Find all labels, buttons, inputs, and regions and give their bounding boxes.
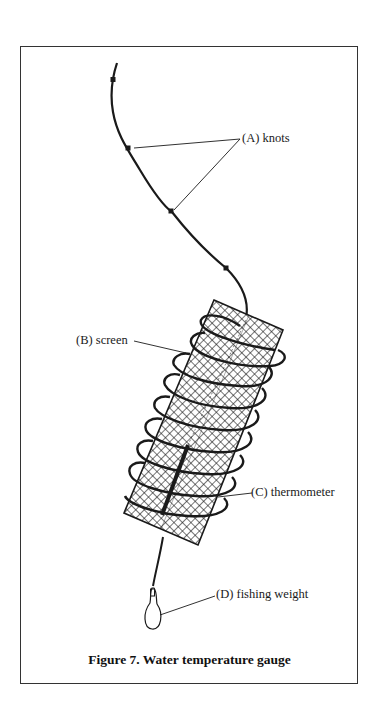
knot-icon [224,266,229,271]
label-thermometer: (C) thermometer [251,485,335,500]
figure-caption: Figure 7. Water temperature gauge [0,652,379,668]
knot-icon [169,209,174,214]
label-knots: (A) knots [242,131,290,146]
knot-icon [111,77,116,82]
fishing-line-icon [112,63,247,318]
knot-icon [126,146,131,151]
label-fishing-weight: (D) fishing weight [216,587,308,602]
fishing-weight-icon [145,588,161,629]
water-temperature-gauge-illustration [0,0,379,720]
label-screen: (B) screen [76,333,128,348]
